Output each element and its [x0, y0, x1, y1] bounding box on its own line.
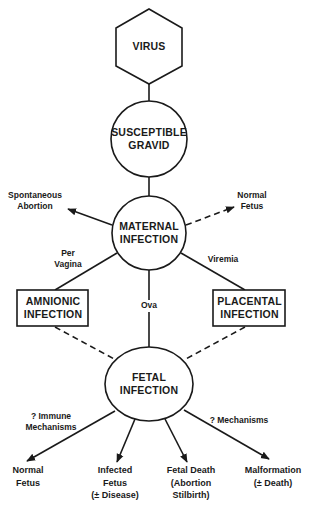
edge-maternal-to-normal-fetus — [186, 207, 234, 225]
outcome-normal-fetus: Normal Fetus — [4, 464, 52, 489]
maternal-infection-line-2: INFECTION — [109, 233, 189, 246]
immune-mechanisms-line-2: Mechanisms — [22, 422, 80, 433]
edge-fetal-to-fetal-death — [165, 419, 187, 462]
outcome-infected-fetus-line-2: Fetus — [85, 477, 145, 490]
virus-label: VIRUS — [109, 40, 189, 53]
outcome-fetal-death-line-3: Stilbirth) — [160, 489, 222, 502]
outcome-normal-fetus-line-2: Fetus — [4, 477, 52, 490]
spontaneous-abortion-label: Spontaneous Abortion — [5, 190, 65, 212]
outcome-fetal-death-line-1: Fetal Death — [160, 464, 222, 477]
outcome-normal-fetus-line-1: Normal — [4, 464, 52, 477]
placental-infection-line-1: PLACENTAL — [213, 295, 286, 308]
virus-fetal-infection-flow-diagram: VIRUS SUSCEPTIBLE GRAVID MATERNAL INFECT… — [0, 0, 310, 506]
maternal-normal-fetus-line-2: Fetus — [232, 201, 272, 212]
per-vagina-label: Per Vagina — [50, 248, 86, 270]
mechanisms-label: ? Mechanisms — [206, 415, 272, 426]
outcome-malformation-line-2: (± Death) — [238, 477, 308, 490]
susceptible-gravid-line-2: GRAVID — [109, 139, 189, 152]
viremia-line: Viremia — [203, 254, 243, 265]
outcome-infected-fetus: Infected Fetus (± Disease) — [85, 464, 145, 502]
viremia-label: Viremia — [203, 254, 243, 265]
susceptible-gravid-line-1: SUSCEPTIBLE — [109, 126, 189, 139]
maternal-infection-line-1: MATERNAL — [109, 220, 189, 233]
mechanisms-line: ? Mechanisms — [206, 415, 272, 426]
outcome-fetal-death-line-2: (Abortion — [160, 477, 222, 490]
fetal-infection-label: FETAL INFECTION — [109, 371, 189, 397]
maternal-infection-label: MATERNAL INFECTION — [109, 220, 189, 246]
outcome-infected-fetus-line-1: Infected — [85, 464, 145, 477]
ova-line: Ova — [134, 300, 164, 311]
edge-fetal-to-infected-fetus — [117, 419, 135, 462]
spontaneous-abortion-line-1: Spontaneous — [5, 190, 65, 201]
maternal-normal-fetus-line-1: Normal — [232, 190, 272, 201]
outcome-fetal-death: Fetal Death (Abortion Stilbirth) — [160, 464, 222, 502]
immune-mechanisms-label: ? Immune Mechanisms — [22, 411, 80, 433]
edge-maternal-to-spontaneous-abortion — [68, 209, 112, 225]
fetal-infection-line-1: FETAL — [109, 371, 189, 384]
immune-mechanisms-line-1: ? Immune — [22, 411, 80, 422]
virus-label-line: VIRUS — [109, 40, 189, 53]
outcome-malformation: Malformation (± Death) — [238, 464, 308, 489]
amnionic-infection-line-2: INFECTION — [17, 308, 89, 321]
amnionic-infection-label: AMNIONIC INFECTION — [17, 295, 89, 321]
maternal-normal-fetus-label: Normal Fetus — [232, 190, 272, 212]
outcome-infected-fetus-line-3: (± Disease) — [85, 489, 145, 502]
amnionic-infection-line-1: AMNIONIC — [17, 295, 89, 308]
per-vagina-line-2: Vagina — [50, 259, 86, 270]
per-vagina-line-1: Per — [50, 248, 86, 259]
placental-infection-line-2: INFECTION — [213, 308, 286, 321]
fetal-infection-line-2: INFECTION — [109, 384, 189, 397]
spontaneous-abortion-line-2: Abortion — [5, 201, 65, 212]
outcome-malformation-line-1: Malformation — [238, 464, 308, 477]
edge-placental-to-fetal — [184, 327, 245, 360]
susceptible-gravid-label: SUSCEPTIBLE GRAVID — [109, 126, 189, 152]
edge-amnionic-to-fetal — [55, 327, 116, 360]
ova-label: Ova — [134, 300, 164, 311]
placental-infection-label: PLACENTAL INFECTION — [213, 295, 286, 321]
